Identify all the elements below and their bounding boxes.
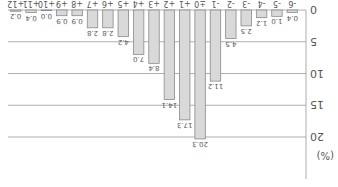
bar-value-label: 4.2: [118, 38, 129, 46]
bar: [180, 10, 190, 120]
bar-value-label: 2.5: [241, 27, 252, 35]
bar: [87, 10, 97, 28]
bar: [226, 10, 236, 39]
x-tick-label: +10: [38, 0, 55, 8]
bar-value-label: 8.4: [148, 64, 160, 72]
chart-canvas: 05101520(%)0.4-61.0-51.2-42.5-34.5-211.2…: [0, 0, 338, 187]
bar-chart: 05101520(%)0.4-61.0-51.2-42.5-34.5-211.2…: [0, 0, 338, 187]
bar-value-label: 2.8: [102, 29, 113, 37]
x-tick-label: ±0: [194, 0, 206, 8]
x-tick-label: +6: [102, 0, 114, 8]
y-tick-label: 5: [310, 35, 317, 48]
bar-value-label: 0.9: [72, 17, 83, 25]
x-tick-label: +8: [71, 0, 83, 8]
x-tick-label: +1: [179, 0, 191, 8]
bar-value-label: 1.0: [271, 17, 282, 25]
x-tick-label: +4: [133, 0, 145, 8]
x-tick-label: -6: [288, 0, 296, 8]
bar-value-label: 2.8: [87, 29, 98, 37]
bar-value-label: 0.9: [56, 17, 67, 25]
bar: [272, 10, 282, 16]
bar-value-label: 0.2: [10, 12, 21, 20]
bar: [195, 10, 205, 139]
x-tick-label: +12: [7, 0, 24, 8]
bar: [149, 10, 159, 63]
y-axis-unit: (%): [317, 150, 334, 161]
x-tick-label: +3: [148, 0, 160, 8]
bar: [57, 10, 67, 16]
bar: [164, 10, 174, 100]
y-tick-label: 15: [310, 98, 324, 111]
bar: [210, 10, 220, 81]
x-tick-label: -3: [242, 0, 250, 8]
bar-value-label: 20.3: [192, 140, 208, 148]
x-tick-label: -1: [211, 0, 219, 8]
y-tick-label: 20: [310, 130, 324, 143]
x-tick-label: +5: [117, 0, 129, 8]
bar-value-label: 1.2: [256, 19, 267, 27]
bar: [241, 10, 251, 26]
bar-value-label: 17.3: [177, 121, 193, 129]
x-tick-label: -5: [273, 0, 281, 8]
y-tick-label: 0: [310, 3, 317, 16]
bar-value-label: 0.0: [41, 12, 52, 20]
bar: [118, 10, 128, 37]
bar: [26, 10, 36, 13]
bar: [256, 10, 266, 18]
bar: [41, 10, 51, 11]
bar-value-label: 7.0: [133, 55, 144, 63]
x-tick-label: -2: [227, 0, 235, 8]
x-tick-label: +11: [23, 0, 40, 8]
bar-value-label: 0.4: [286, 14, 298, 22]
bar: [10, 10, 20, 11]
x-tick-label: -4: [258, 0, 266, 8]
bar-value-label: 4.5: [225, 40, 236, 48]
x-tick-label: +7: [87, 0, 99, 8]
bar-value-label: 11.2: [208, 82, 224, 90]
bar: [287, 10, 297, 13]
bar: [103, 10, 113, 28]
bar: [72, 10, 82, 16]
y-tick-label: 10: [310, 67, 324, 80]
x-tick-label: +9: [56, 0, 68, 8]
bar-value-label: 14.1: [162, 101, 178, 109]
x-tick-label: +2: [163, 0, 175, 8]
bar: [133, 10, 143, 54]
bar-value-label: 0.4: [25, 14, 37, 22]
